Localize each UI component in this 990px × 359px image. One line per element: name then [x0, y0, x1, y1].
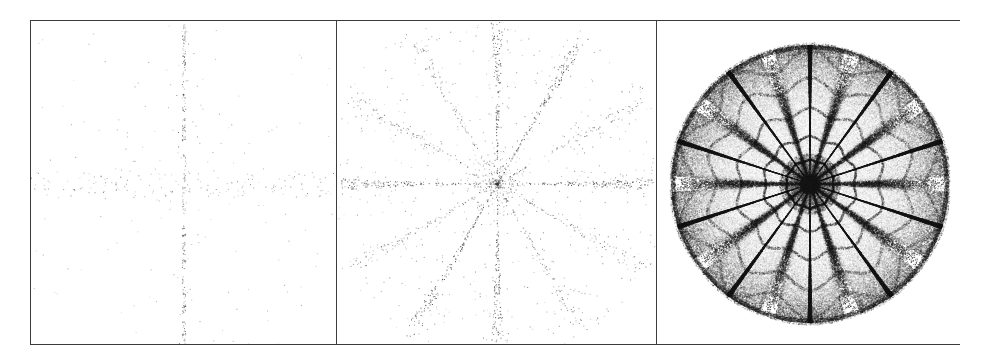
panel-right-plot [657, 21, 961, 344]
panel-middle [336, 21, 656, 344]
panel-right [656, 21, 961, 344]
panel-left [31, 21, 336, 344]
panel-middle-plot [337, 21, 656, 344]
figure-root [0, 0, 990, 359]
figure-frame [30, 20, 960, 345]
panel-left-plot [31, 21, 336, 344]
